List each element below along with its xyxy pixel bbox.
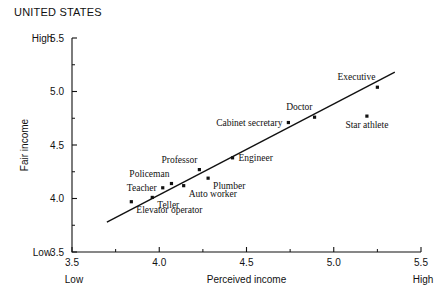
x-tick-label: 4.5 [240,257,254,268]
data-point-marker [231,156,234,159]
x-axis-high-anchor: High [413,274,434,285]
data-point-label: Teller [157,200,180,210]
x-axis-title: Perceived income [207,274,287,285]
x-axis-low-anchor: Low [65,274,84,285]
data-point-label: Teacher [127,183,158,193]
data-point-label: Plumber [213,181,246,191]
data-point-marker [198,168,201,171]
data-point-marker [207,177,210,180]
x-tick-label: 5.0 [327,257,341,268]
data-point-marker [161,186,164,189]
y-tick-label: 3.5 [50,247,64,258]
y-tick-label: 5.0 [50,86,64,97]
data-point-label: Doctor [286,102,313,112]
data-point-marker [130,200,133,203]
x-tick-label: 5.5 [414,257,428,268]
data-point-label: Policeman [129,169,169,179]
regression-line [107,72,395,222]
chart-figure: UNITED STATES 3.54.04.55.05.53.54.04.55.… [0,0,448,304]
data-point-marker [376,86,379,89]
y-axis-title: Fair income [19,118,30,171]
data-point-marker [182,184,185,187]
y-axis-low-anchor: Low [33,247,52,258]
data-point-marker [287,121,290,124]
y-tick-label: 4.0 [50,193,64,204]
data-point-label: Star athlete [345,120,388,130]
scatter-plot-canvas: 3.54.04.55.05.53.54.04.55.05.5HighLowLow… [0,0,448,304]
axis-lines [72,38,421,252]
y-axis-high-anchor: High [32,33,53,44]
data-point-label: Executive [337,72,375,82]
x-tick-label: 4.0 [152,257,166,268]
data-point-label: Engineer [239,153,274,163]
data-point-label: Cabinet secretary [216,118,282,128]
data-point-label: Professor [161,155,198,165]
data-point-marker [365,115,368,118]
data-point-marker [151,196,154,199]
data-point-marker [313,116,316,119]
y-tick-label: 4.5 [50,140,64,151]
data-point-marker [170,182,173,185]
x-tick-label: 3.5 [65,257,79,268]
